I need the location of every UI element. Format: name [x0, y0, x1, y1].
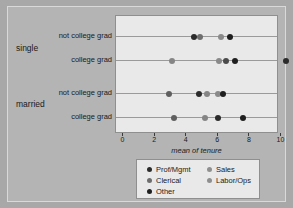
data-point — [218, 34, 224, 40]
legend-label: Prof/Mgmt — [156, 165, 191, 174]
data-point — [169, 58, 175, 64]
legend-marker-icon — [147, 178, 152, 183]
legend-marker-icon — [147, 167, 152, 172]
x-axis-tick-label: 10 — [277, 136, 285, 144]
legend-item[interactable]: Prof/Mgmt — [147, 165, 191, 174]
data-point — [166, 91, 172, 97]
legend-label: Sales — [216, 165, 235, 174]
data-point — [197, 34, 203, 40]
data-point — [216, 58, 222, 64]
legend-marker-icon — [147, 189, 152, 194]
data-point — [240, 115, 246, 121]
category-label-single-college-grad: college grad — [71, 55, 112, 64]
x-axis: 0246810 — [115, 133, 278, 136]
data-point — [227, 34, 233, 40]
grid-line-row — [116, 60, 277, 61]
x-axis-title: mean of tenure — [115, 146, 278, 155]
group-label-married: married — [16, 99, 45, 109]
category-label-married-college-grad: college grad — [71, 112, 112, 121]
group-label-single: single — [16, 43, 38, 53]
legend-label: Clerical — [156, 176, 181, 185]
legend-item[interactable]: Sales — [207, 165, 235, 174]
data-point — [215, 115, 221, 121]
data-point — [171, 115, 177, 121]
data-point — [220, 91, 226, 97]
category-label-single-not-college-grad: not college grad — [59, 31, 112, 40]
legend-marker-icon — [207, 178, 212, 183]
legend-marker-icon — [207, 167, 212, 172]
legend-item[interactable]: Clerical — [147, 176, 181, 185]
x-axis-tick-label: 2 — [152, 136, 156, 144]
data-point — [283, 58, 289, 64]
data-point — [202, 115, 208, 121]
chart-figure: single married not college grad college … — [7, 6, 286, 202]
legend: Prof/MgmtSalesClericalLabor/OpsOther — [136, 159, 260, 199]
data-point — [223, 58, 229, 64]
x-axis-tick-label: 6 — [215, 136, 219, 144]
data-point — [232, 58, 238, 64]
x-axis-tick-label: 8 — [247, 136, 251, 144]
data-point — [204, 91, 210, 97]
x-axis-tick-label: 0 — [121, 136, 125, 144]
x-axis-tick-label: 4 — [184, 136, 188, 144]
legend-item[interactable]: Other — [147, 187, 175, 196]
data-point — [196, 91, 202, 97]
grid-line-row — [116, 117, 277, 118]
plot-area — [115, 15, 278, 133]
legend-label: Labor/Ops — [216, 176, 251, 185]
category-axis-labels: single married not college grad college … — [8, 15, 112, 133]
legend-item[interactable]: Labor/Ops — [207, 176, 251, 185]
data-point — [191, 34, 197, 40]
category-label-married-not-college-grad: not college grad — [59, 88, 112, 97]
legend-label: Other — [156, 187, 175, 196]
